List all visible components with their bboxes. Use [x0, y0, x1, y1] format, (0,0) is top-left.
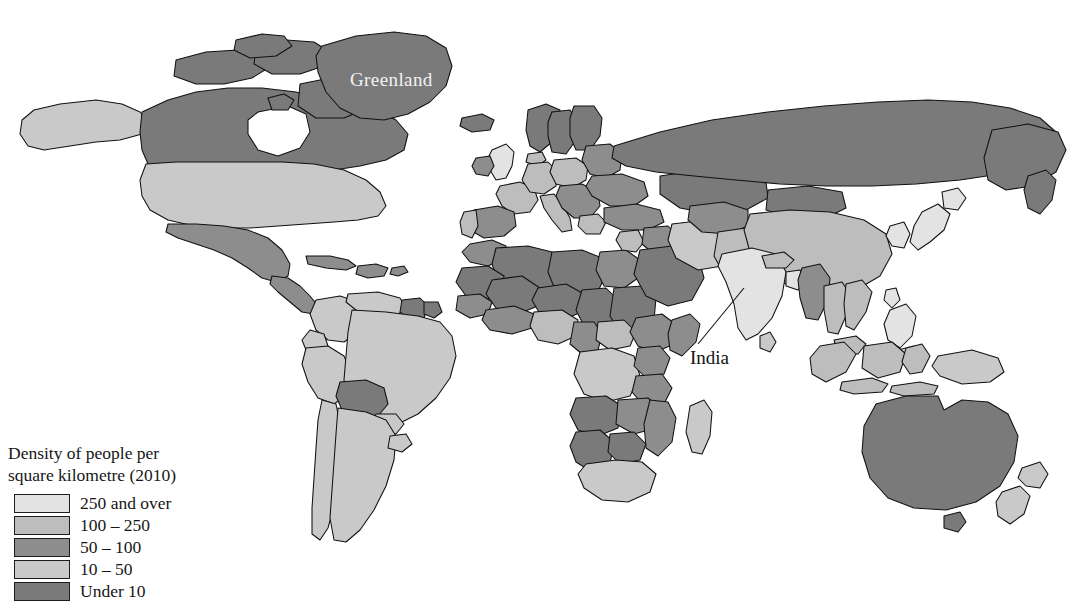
region-turkey	[604, 204, 664, 230]
region-suriname	[424, 302, 442, 318]
legend-swatch-250-and-over	[14, 494, 70, 513]
region-philippines	[884, 304, 916, 348]
region-new-zealand-north	[1018, 462, 1048, 488]
region-cuba	[306, 256, 356, 270]
region-taiwan	[884, 288, 900, 308]
region-australia	[862, 396, 1018, 510]
legend-rows: 250 and over 100 – 250 50 – 100 10 – 50 …	[14, 492, 258, 602]
region-south-africa	[578, 460, 656, 502]
region-lesser-sunda	[890, 382, 938, 396]
region-portugal	[460, 210, 478, 238]
region-japan	[910, 204, 950, 250]
region-poland	[550, 158, 588, 188]
region-sulawesi	[902, 344, 930, 374]
region-botswana	[608, 432, 646, 464]
region-sri-lanka	[760, 332, 776, 352]
region-puerto-rico	[390, 266, 408, 276]
label-india: India	[690, 347, 730, 368]
region-alaska	[20, 100, 150, 150]
region-new-zealand-south	[996, 486, 1030, 524]
region-papua-new-guinea	[932, 350, 1004, 384]
legend-label-250-and-over: 250 and over	[80, 494, 171, 513]
region-mexico	[166, 224, 290, 282]
legend-label-100-250: 100 – 250	[80, 516, 150, 535]
label-greenland: Greenland	[350, 69, 433, 90]
region-ireland	[472, 156, 494, 176]
legend-swatch-100-250	[14, 516, 70, 535]
region-korea	[886, 222, 910, 248]
region-drc	[574, 348, 640, 402]
figure-canvas: Greenland India Density of people per sq…	[0, 0, 1079, 614]
map-legend: Density of people per square kilometre (…	[8, 442, 258, 602]
legend-item-under-10: Under 10	[14, 580, 258, 602]
region-java	[840, 378, 888, 394]
legend-title: Density of people per square kilometre (…	[8, 442, 258, 486]
region-levant	[616, 230, 644, 252]
region-central-america	[270, 276, 318, 314]
legend-item-250-and-over: 250 and over	[14, 492, 258, 514]
region-kamchatka	[1024, 170, 1056, 214]
region-uruguay	[388, 434, 412, 452]
region-finland	[570, 106, 602, 150]
region-hispaniola	[356, 264, 388, 278]
legend-item-10-50: 10 – 50	[14, 558, 258, 580]
region-egypt	[596, 250, 640, 288]
legend-label-10-50: 10 – 50	[80, 560, 133, 579]
region-iceland	[460, 114, 494, 132]
region-greece	[578, 214, 606, 234]
legend-label-under-10: Under 10	[80, 582, 146, 601]
region-sumatra	[810, 342, 856, 382]
legend-label-50-100: 50 – 100	[80, 538, 141, 557]
region-mozambique	[644, 400, 676, 456]
legend-item-50-100: 50 – 100	[14, 536, 258, 558]
region-united-states	[140, 162, 386, 228]
region-vietnam	[844, 280, 872, 330]
legend-swatch-10-50	[14, 560, 70, 579]
region-japan-north	[942, 188, 966, 210]
legend-swatch-50-100	[14, 538, 70, 557]
region-tasmania	[944, 512, 966, 532]
region-argentina	[330, 408, 396, 542]
legend-swatch-under-10	[14, 582, 70, 601]
legend-item-100-250: 100 – 250	[14, 514, 258, 536]
region-madagascar	[686, 400, 712, 454]
